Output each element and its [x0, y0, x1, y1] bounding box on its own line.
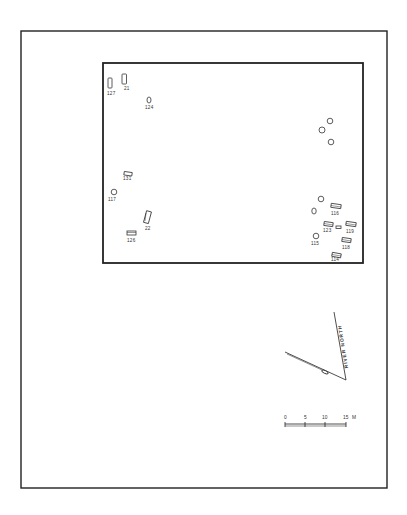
feature-22: 22 [144, 211, 152, 231]
feature-124: 124 [145, 97, 154, 110]
feature-unlabeled-5 [312, 208, 316, 214]
svg-text:123: 123 [323, 228, 332, 233]
svg-text:116: 116 [331, 211, 339, 216]
feature-114: 114 [331, 252, 341, 262]
svg-text:21: 21 [124, 86, 130, 91]
scale-unit: M [352, 415, 356, 420]
feature-unlabeled-1 [327, 118, 333, 124]
svg-text:117: 117 [108, 197, 116, 202]
site-boundary [103, 63, 363, 263]
svg-text:124: 124 [145, 105, 154, 110]
compass-needle-icon [321, 369, 329, 374]
feature-116: 116 [331, 203, 341, 216]
feature-unlabeled-6 [336, 226, 341, 229]
feature-unlabeled-4 [318, 196, 324, 202]
scale-tick-10: 10 [322, 415, 328, 420]
site-plan-diagram: 127 21 124 131 117 22 126 116 123 [0, 0, 407, 515]
feature-127: 127 [107, 78, 116, 96]
feature-21: 21 [122, 74, 130, 91]
scale-tick-15: 15 [343, 415, 349, 420]
north-arrow: RIVER NORTH [285, 312, 349, 380]
scale-bar: 0 5 10 15 M [284, 415, 356, 427]
scale-tick-0: 0 [284, 415, 287, 420]
svg-text:22: 22 [145, 226, 151, 231]
scale-tick-5: 5 [304, 415, 307, 420]
feature-117: 117 [108, 189, 117, 202]
feature-118: 118 [342, 237, 351, 250]
feature-123: 123 [323, 221, 333, 233]
river-north-label: RIVER NORTH [337, 324, 349, 368]
svg-text:127: 127 [107, 91, 116, 96]
feature-131: 131 [123, 171, 132, 181]
svg-text:114: 114 [331, 257, 339, 262]
svg-text:126: 126 [127, 238, 136, 243]
feature-126: 126 [127, 231, 136, 243]
feature-115: 115 [311, 233, 319, 246]
svg-text:131: 131 [123, 176, 132, 181]
svg-text:118: 118 [342, 245, 350, 250]
feature-unlabeled-2 [319, 127, 325, 133]
feature-unlabeled-3 [328, 139, 334, 145]
feature-119: 119 [346, 221, 356, 234]
svg-text:115: 115 [311, 241, 319, 246]
svg-text:119: 119 [346, 229, 354, 234]
